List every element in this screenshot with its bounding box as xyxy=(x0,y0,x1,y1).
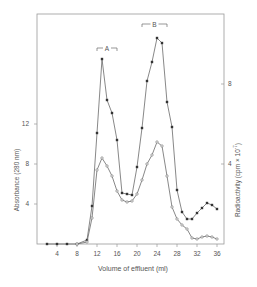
open-marker xyxy=(176,218,178,220)
right-y-tick-label: 4 xyxy=(228,160,232,167)
x-tick-label: 24 xyxy=(153,250,161,257)
open-marker xyxy=(161,145,163,147)
filled-marker xyxy=(126,193,128,195)
filled-marker xyxy=(161,42,163,44)
x-axis-ticks: 4812162024283236 xyxy=(55,244,221,257)
right-y-axis-label-base: Radioactivity (cpm × 10 xyxy=(234,149,242,217)
open-marker xyxy=(101,157,103,159)
x-tick-label: 36 xyxy=(213,250,221,257)
chromatography-chart: 4812162024283236 4812 48 AB Volume of ef… xyxy=(0,0,257,287)
filled-marker xyxy=(56,243,58,245)
filled-marker xyxy=(131,194,133,196)
x-tick-label: 4 xyxy=(55,250,59,257)
open-marker xyxy=(171,206,173,208)
right-y-axis-label-close: ) xyxy=(234,143,242,145)
open-marker xyxy=(186,228,188,230)
filled-marker xyxy=(66,243,68,245)
filled-marker xyxy=(106,99,108,101)
filled-marker xyxy=(216,208,218,210)
open-marker xyxy=(211,236,213,238)
open-marker xyxy=(141,179,143,181)
left-y-tick-label: 4 xyxy=(25,200,29,207)
filled-marker xyxy=(206,202,208,204)
filled-marker xyxy=(201,207,203,209)
peak-annotations: AB xyxy=(97,21,167,52)
filled-marker xyxy=(46,243,48,245)
open-marker xyxy=(191,237,193,239)
bracket-label: B xyxy=(152,21,156,28)
open-marker xyxy=(131,200,133,202)
x-tick-label: 12 xyxy=(93,250,101,257)
open-marker xyxy=(86,241,88,243)
x-tick-label: 16 xyxy=(113,250,121,257)
filled-marker xyxy=(146,80,148,82)
right-y-axis-ticks: 48 xyxy=(221,80,232,167)
left-y-tick-label: 8 xyxy=(25,160,29,167)
series-line xyxy=(77,142,217,244)
open-marker xyxy=(216,238,218,240)
peak-bracket-b: B xyxy=(142,21,167,28)
filled-marker xyxy=(186,218,188,220)
open-marker xyxy=(76,243,78,245)
plot-border xyxy=(37,14,224,244)
filled-marker xyxy=(176,189,178,191)
filled-marker xyxy=(111,112,113,114)
open-marker xyxy=(151,154,153,156)
filled-marker xyxy=(151,61,153,63)
filled-marker xyxy=(181,211,183,213)
left-y-tick-label: 12 xyxy=(22,120,30,127)
x-tick-label: 28 xyxy=(173,250,181,257)
series-line xyxy=(47,38,217,244)
plot-frame xyxy=(37,14,224,244)
filled-marker xyxy=(116,139,118,141)
x-tick-label: 20 xyxy=(133,250,141,257)
radioactivity-series xyxy=(76,141,218,245)
left-y-axis-ticks: 4812 xyxy=(22,120,37,207)
open-marker xyxy=(121,199,123,201)
open-marker xyxy=(106,165,108,167)
open-marker xyxy=(116,190,118,192)
filled-marker xyxy=(171,126,173,128)
filled-marker xyxy=(156,37,158,39)
open-marker xyxy=(181,224,183,226)
filled-marker xyxy=(166,101,168,103)
absorbance-series xyxy=(46,37,218,245)
open-marker xyxy=(166,175,168,177)
x-tick-label: 32 xyxy=(193,250,201,257)
right-y-tick-label: 8 xyxy=(228,80,232,87)
open-marker xyxy=(201,236,203,238)
filled-marker xyxy=(191,218,193,220)
open-marker xyxy=(136,193,138,195)
left-y-axis-label: Absorbance (280 nm) xyxy=(13,149,21,212)
filled-marker xyxy=(196,212,198,214)
filled-marker xyxy=(121,192,123,194)
data-series xyxy=(46,37,218,245)
open-marker xyxy=(126,201,128,203)
filled-marker xyxy=(96,132,98,134)
open-marker xyxy=(146,163,148,165)
open-marker xyxy=(91,217,93,219)
open-marker xyxy=(156,141,158,143)
x-tick-label: 8 xyxy=(75,250,79,257)
open-marker xyxy=(196,238,198,240)
open-marker xyxy=(206,235,208,237)
x-axis-label: Volume of effluent (ml) xyxy=(98,265,168,273)
open-marker xyxy=(111,175,113,177)
filled-marker xyxy=(141,127,143,129)
right-y-axis-label: Radioactivity (cpm × 10-7) xyxy=(233,143,242,217)
open-marker xyxy=(96,169,98,171)
filled-marker xyxy=(101,58,103,60)
filled-marker xyxy=(136,166,138,168)
filled-marker xyxy=(211,204,213,206)
peak-bracket-a: A xyxy=(97,45,117,52)
bracket-label: A xyxy=(105,45,110,52)
